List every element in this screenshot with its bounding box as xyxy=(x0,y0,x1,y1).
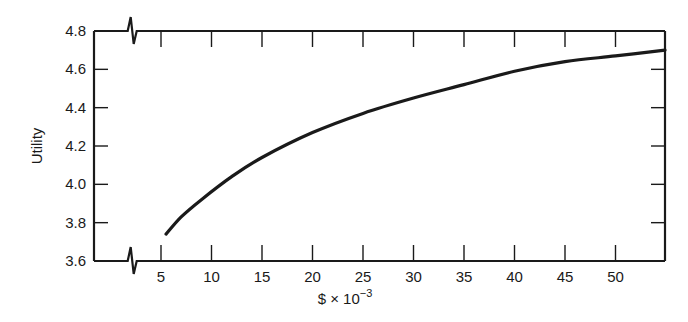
utility-curve xyxy=(166,50,665,234)
x-tick-label: 20 xyxy=(304,268,321,285)
x-tick-label: 15 xyxy=(254,268,271,285)
y-axis-title: Utility xyxy=(28,127,45,164)
x-tick-label: 5 xyxy=(157,268,165,285)
x-tick-label: 35 xyxy=(456,268,473,285)
tick-labels: 51015202530354045503.63.84.04.24.44.64.8 xyxy=(65,22,624,285)
utility-chart: 51015202530354045503.63.84.04.24.44.64.8… xyxy=(0,0,688,322)
x-tick-label: 25 xyxy=(355,268,372,285)
x-axis-line xyxy=(94,247,665,274)
y-tick-label: 4.4 xyxy=(65,99,86,116)
y-tick-label: 4.8 xyxy=(65,22,86,39)
y-tick-label: 4.0 xyxy=(65,175,86,192)
x-tick-label: 45 xyxy=(557,268,574,285)
x-tick-label: 40 xyxy=(506,268,523,285)
x-axis-title-base: $ × 10 xyxy=(318,290,360,307)
x-tick-label: 50 xyxy=(607,268,624,285)
x-axis-title-exponent: −3 xyxy=(360,287,373,299)
top-axis-line xyxy=(94,17,665,44)
y-tick-label: 4.2 xyxy=(65,137,86,154)
axis-ticks xyxy=(94,31,665,261)
y-tick-label: 3.8 xyxy=(65,214,86,231)
x-tick-label: 30 xyxy=(405,268,422,285)
y-tick-label: 4.6 xyxy=(65,60,86,77)
y-tick-label: 3.6 xyxy=(65,252,86,269)
plot-frame xyxy=(94,17,665,274)
x-axis-title: $ × 10−3 xyxy=(318,287,373,307)
x-tick-label: 10 xyxy=(203,268,220,285)
